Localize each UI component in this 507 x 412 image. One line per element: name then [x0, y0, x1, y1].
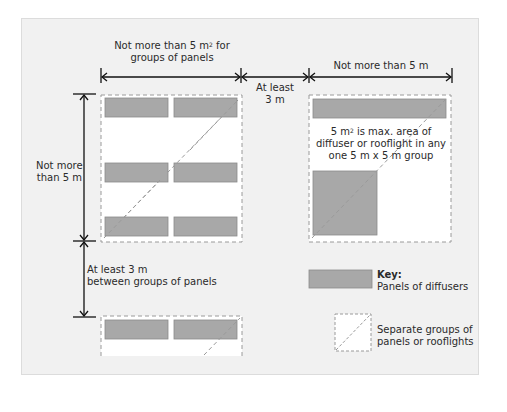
panel: [105, 320, 168, 339]
label-right-width: Not more than 5 m: [320, 60, 442, 72]
panel: [105, 163, 168, 182]
group-left-lower: [101, 316, 242, 356]
group-left-upper: [101, 95, 242, 242]
key-symbols: [309, 270, 372, 351]
key-title: Key:: [377, 269, 402, 281]
panel: [174, 98, 237, 117]
panel: [313, 99, 446, 118]
panel: [105, 98, 168, 117]
key-panels-label: Panels of diffusers: [377, 281, 468, 293]
panel: [174, 320, 237, 339]
label-group-width: Not more than 5 m2 for groups of panels: [110, 40, 234, 64]
diagram-canvas: Not more than 5 m2 for groups of panels …: [0, 0, 507, 412]
label-group-gap: At least 3 m: [250, 82, 300, 106]
panel: [174, 163, 237, 182]
label-group-height: Not more than 5 m: [36, 160, 82, 184]
label-max-area-note: 5 m2 is max. area of diffuser or rooflig…: [314, 126, 448, 162]
panel: [174, 217, 237, 236]
key-groups-label: Separate groups of panels or rooflights: [377, 324, 474, 348]
group-right: [309, 95, 451, 242]
label-vertical-gap: At least 3 m between groups of panels: [87, 264, 217, 288]
key-panel-icon: [309, 270, 372, 288]
